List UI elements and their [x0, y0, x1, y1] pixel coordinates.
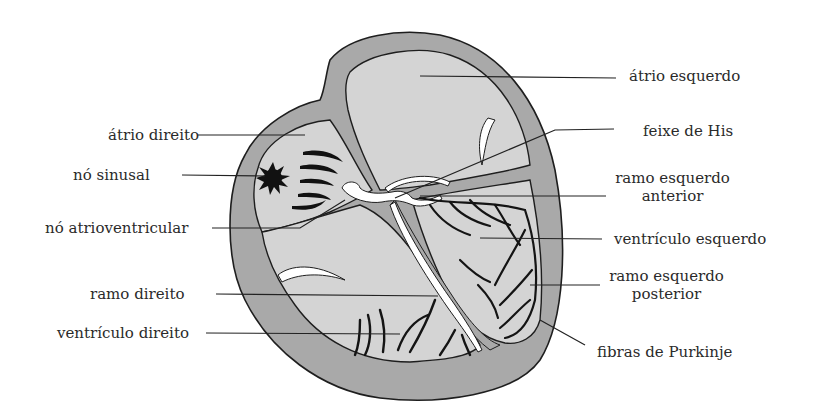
label-atrio-direito: átrio direito [108, 126, 199, 144]
label-ventriculo-esquerdo: ventrículo esquerdo [614, 230, 766, 248]
label-ramo-esquerdo-posterior: ramo esquerdo posterior [604, 267, 729, 303]
label-no-sinusal: nó sinusal [73, 166, 150, 184]
label-ramo-direito: ramo direito [90, 285, 184, 303]
label-feixe-de-his: feixe de His [643, 122, 733, 140]
heart-conduction-diagram: átrio direito nó sinusal nó atrioventric… [0, 0, 822, 420]
label-ramo-esquerdo-posterior-line2: posterior [604, 285, 729, 303]
label-ramo-esquerdo-posterior-line1: ramo esquerdo [604, 267, 729, 285]
label-ventriculo-direito: ventrículo direito [57, 324, 189, 342]
label-ramo-esquerdo-anterior: ramo esquerdo anterior [610, 169, 735, 205]
label-ramo-esquerdo-anterior-line2: anterior [610, 187, 735, 205]
label-atrio-esquerdo: átrio esquerdo [629, 67, 740, 85]
label-no-atrioventricular: nó atrioventricular [45, 219, 188, 237]
label-ramo-esquerdo-anterior-line1: ramo esquerdo [610, 169, 735, 187]
label-fibras-de-purkinje: fibras de Purkinje [597, 343, 732, 361]
